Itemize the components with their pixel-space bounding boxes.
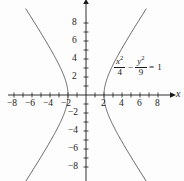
x-tick-label-2: 2	[101, 99, 106, 109]
hyperbola-figure: −8 −6 −4 −2 2 4 6 8 8 6 4 2 −2 −4 −6 −8 …	[0, 0, 184, 181]
y-tick-label-8: 8	[72, 18, 77, 28]
y-tick-label--8: −8	[68, 162, 78, 172]
numerator-y-squared: y2	[135, 57, 146, 67]
minus-operator: −	[128, 63, 133, 72]
x-tick-label-6: 6	[137, 99, 142, 109]
fraction-x-squared-over-4: x2 4	[114, 57, 125, 77]
numerator-x-squared: x2	[114, 57, 125, 67]
x-tick-label--6: −6	[25, 99, 35, 109]
x-axis-label: x	[176, 89, 180, 99]
y-tick-label--2: −2	[68, 108, 78, 118]
x-tick-label-4: 4	[119, 99, 124, 109]
x-tick-label--4: −4	[43, 99, 53, 109]
equals-sign: =	[149, 63, 154, 72]
y-axis	[83, 0, 89, 181]
y-tick-label--6: −6	[68, 144, 78, 154]
y-tick-label-2: 2	[72, 72, 77, 82]
x-axis	[8, 92, 176, 98]
x-tick-label-8: 8	[155, 99, 160, 109]
denominator-9: 9	[137, 68, 146, 78]
plot-canvas	[0, 0, 184, 181]
x-tick-label--8: −8	[7, 99, 17, 109]
equation-annotation: x2 4 − y2 9 = 1	[113, 57, 162, 77]
y-tick-label--4: −4	[68, 126, 78, 136]
denominator-4: 4	[115, 68, 124, 78]
y-tick-label-6: 6	[72, 36, 77, 46]
y-tick-label-4: 4	[72, 54, 77, 64]
fraction-y-squared-over-9: y2 9	[135, 57, 146, 77]
right-hand-side-1: 1	[157, 63, 162, 72]
